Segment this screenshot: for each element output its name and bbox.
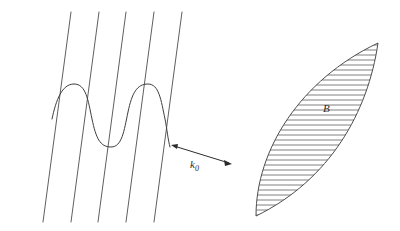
hatch-fill [240, 45, 400, 215]
wave-vector-arrow: k0 [171, 144, 232, 173]
arrow-head-right [224, 160, 232, 166]
arrow-head-left [171, 144, 178, 149]
sinusoidal-wave-group [52, 84, 170, 147]
wavefront-line-5 [154, 12, 182, 222]
arrow-shaft [174, 146, 229, 163]
hatched-region-group: B [240, 43, 400, 216]
figure-canvas: k0 [0, 0, 400, 231]
wavefront-line-group [43, 12, 182, 222]
wave-vector-diagram: k0 [0, 0, 400, 231]
wave-vector-label-subscript: 0 [195, 164, 199, 173]
wavefront-line-3 [98, 12, 126, 222]
wavefront-line-4 [126, 12, 154, 222]
sinusoidal-wave-path [52, 84, 170, 147]
region-label-b: B [323, 102, 330, 114]
wavefront-line-2 [71, 12, 99, 222]
wave-vector-label: k0 [190, 158, 199, 173]
wavefront-line-1 [43, 12, 71, 222]
